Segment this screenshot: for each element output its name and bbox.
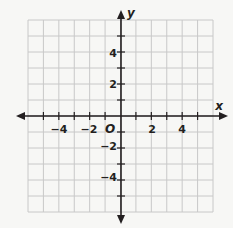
tick-labels: −4 −2 2 4 4 2 −2 −4 O x y xyxy=(51,6,225,184)
y-axis-up-arrow-icon xyxy=(117,10,125,19)
x-tick-label: 4 xyxy=(178,123,186,136)
x-axis-left-arrow-icon xyxy=(16,112,25,120)
y-tick-label: 2 xyxy=(109,78,117,91)
y-axis-label: y xyxy=(127,6,136,20)
x-axis-right-arrow-icon xyxy=(219,112,228,120)
x-axis-label: x xyxy=(214,99,224,113)
y-axis-down-arrow-icon xyxy=(117,215,125,224)
x-tick-label: −2 xyxy=(81,123,98,136)
coordinate-plane: −4 −2 2 4 4 2 −2 −4 O x y xyxy=(0,0,233,228)
y-tick-label: 4 xyxy=(109,47,117,60)
origin-label: O xyxy=(105,122,115,136)
x-tick-label: −4 xyxy=(51,123,68,136)
y-tick-label: −2 xyxy=(100,140,117,153)
x-tick-label: 2 xyxy=(148,123,156,136)
y-tick-label: −4 xyxy=(100,171,117,184)
axes xyxy=(16,10,228,224)
